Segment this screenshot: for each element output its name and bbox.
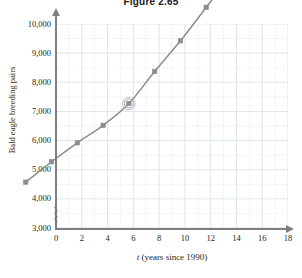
y-axis-title: Bald eagle breeding pairs <box>7 20 17 200</box>
x-tick-label: 18 <box>276 233 300 243</box>
x-tick-label: 14 <box>224 233 248 243</box>
x-tick-label: 10 <box>173 233 197 243</box>
axis-break-icon <box>50 205 62 223</box>
x-tick-label: 2 <box>70 233 94 243</box>
y-axis-arrow-icon <box>52 8 60 16</box>
figure-container: Figure 2.65 3,0004,0005,0006,0007,0008,0… <box>0 0 302 278</box>
y-axis-line <box>55 14 57 229</box>
x-axis-title-rest: (years since 1990) <box>139 252 207 262</box>
x-axis-title: t (years since 1990) <box>56 252 288 262</box>
x-tick-label: 6 <box>121 233 145 243</box>
x-axis-arrow-icon <box>286 225 294 233</box>
y-tick-label: 3,000 <box>32 224 51 233</box>
x-tick-label: 8 <box>147 233 171 243</box>
x-axis-line <box>55 228 287 230</box>
data-curve <box>0 0 248 218</box>
x-tick-label: 4 <box>96 233 120 243</box>
x-tick-label: 12 <box>199 233 223 243</box>
x-tick-label: 16 <box>250 233 274 243</box>
x-tick-label: 0 <box>44 233 68 243</box>
